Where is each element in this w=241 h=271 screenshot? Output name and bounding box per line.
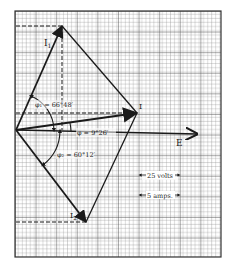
svg-text:25 volts: 25 volts — [147, 172, 173, 180]
label-phi2: φ₂ = 60°12′ — [57, 151, 96, 159]
scale-volts: 25 volts — [140, 171, 179, 180]
label-e: E — [176, 138, 183, 148]
phasor-diagram: I1 I E I2 φ₁ = 66°48′ φ = 9°26′ φ₂ = 60°… — [0, 0, 241, 271]
label-i: I — [139, 102, 142, 111]
label-phi1: φ₁ = 66°48′ — [35, 101, 74, 109]
svg-text:5 amps.: 5 amps. — [147, 192, 173, 200]
label-phi: φ = 9°26′ — [77, 129, 109, 137]
